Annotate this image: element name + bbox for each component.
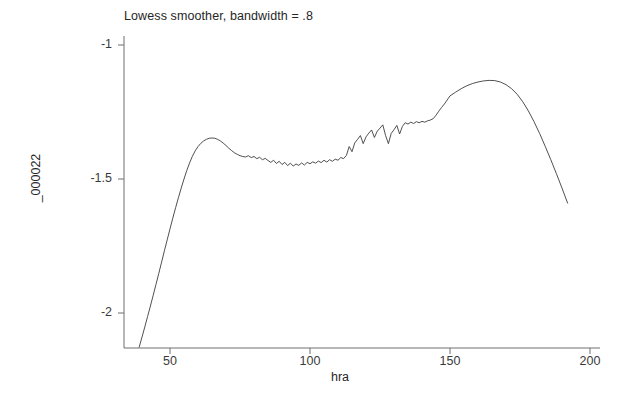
y-tick-label: -2 (72, 305, 112, 319)
axis-lines (124, 36, 600, 348)
lowess-curve (139, 80, 567, 347)
x-tick-label: 100 (290, 354, 330, 368)
y-tick-label: -1 (72, 37, 112, 51)
x-tick-label: 200 (570, 354, 610, 368)
lowess-plot: Lowess smoother, bandwidth = .8 _000022 … (0, 0, 630, 405)
plot-canvas (0, 0, 630, 405)
y-tick-label: -1.5 (72, 171, 112, 185)
x-tick-label: 150 (430, 354, 470, 368)
x-tick-label: 50 (150, 354, 190, 368)
tick-marks (118, 45, 590, 354)
